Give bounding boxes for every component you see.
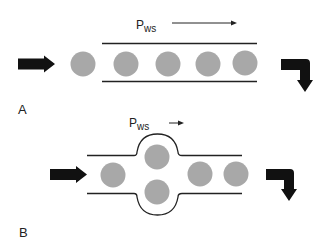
panel-label-a: A bbox=[18, 102, 27, 117]
particle bbox=[188, 162, 213, 187]
particle bbox=[156, 52, 181, 77]
pressure-label-a: Pws bbox=[136, 18, 156, 34]
particle bbox=[145, 145, 170, 170]
pressure-label-b: Pws bbox=[129, 116, 149, 132]
inflow-arrow-b-icon bbox=[50, 166, 87, 183]
panel-label-b: B bbox=[19, 225, 28, 240]
diagram-canvas: Pws A Pws bbox=[0, 0, 327, 240]
particles-a bbox=[71, 51, 258, 77]
panel-a: Pws A bbox=[18, 18, 313, 117]
particle bbox=[71, 52, 96, 77]
pressure-direction-arrow-b bbox=[169, 121, 184, 126]
pressure-direction-arrow-a bbox=[172, 21, 237, 26]
particle bbox=[224, 162, 249, 187]
particle bbox=[101, 163, 126, 188]
particles-b bbox=[101, 145, 249, 205]
particle bbox=[196, 52, 221, 77]
outflow-turn-arrow-a-icon bbox=[281, 59, 313, 92]
particle bbox=[145, 180, 170, 205]
panel-b: Pws B bbox=[19, 116, 297, 240]
particle bbox=[233, 51, 258, 76]
outflow-turn-arrow-b-icon bbox=[266, 169, 297, 201]
inflow-arrow-a-icon bbox=[18, 56, 55, 73]
particle bbox=[114, 52, 139, 77]
